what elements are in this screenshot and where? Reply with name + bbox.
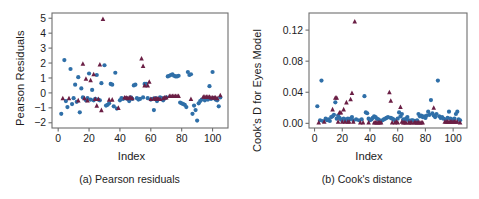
- data-point-circle: [73, 83, 77, 87]
- data-point-circle: [62, 58, 66, 62]
- data-point-triangle: [101, 16, 106, 21]
- x-tick-label-a: 100: [204, 133, 222, 144]
- x-tick-label-b: 100: [444, 133, 462, 144]
- data-point-circle: [113, 71, 117, 75]
- x-tick-label-b: 80: [420, 133, 432, 144]
- data-point-circle: [152, 108, 156, 112]
- data-point-circle: [436, 79, 440, 83]
- y-tick-label-b: 0.04: [283, 87, 303, 98]
- data-point-circle: [70, 102, 74, 106]
- x-tick-label-a: 80: [176, 133, 188, 144]
- data-point-triangle: [67, 96, 72, 101]
- data-point-circle: [110, 83, 114, 87]
- data-point-circle: [319, 79, 323, 83]
- y-tick-label-a: 1: [40, 73, 46, 84]
- data-point-circle: [107, 101, 111, 105]
- data-point-triangle: [84, 76, 89, 81]
- data-point-triangle: [341, 107, 346, 112]
- data-point-circle: [133, 83, 137, 87]
- x-tick-label-b: 0: [312, 133, 318, 144]
- data-point-circle: [59, 112, 63, 116]
- data-point-triangle: [387, 90, 392, 95]
- data-point-circle: [184, 105, 188, 109]
- figure-container: −2−1012345020406080100 Pearson Residuals…: [0, 0, 479, 199]
- data-point-triangle: [94, 103, 99, 108]
- data-point-triangle: [350, 91, 355, 96]
- data-point-circle: [189, 72, 193, 76]
- x-tick-label-b: 60: [392, 133, 404, 144]
- data-point-circle: [210, 70, 214, 74]
- x-tick-label-a: 20: [83, 133, 95, 144]
- series-circles-a: [59, 58, 222, 123]
- data-point-triangle: [388, 98, 393, 103]
- data-point-triangle: [99, 108, 104, 113]
- data-point-circle: [429, 98, 433, 102]
- data-point-circle: [141, 95, 145, 99]
- series-circles-b: [315, 79, 462, 124]
- data-point-triangle: [88, 78, 93, 83]
- data-point-triangle: [61, 96, 66, 101]
- y-tick-label-a: −2: [34, 117, 46, 128]
- data-point-circle: [102, 63, 106, 67]
- data-point-circle: [193, 108, 197, 112]
- data-point-triangle: [431, 105, 436, 110]
- data-point-circle: [455, 110, 459, 114]
- data-point-circle: [76, 75, 80, 79]
- data-point-circle: [90, 88, 94, 92]
- x-tick-label-a: 0: [55, 133, 61, 144]
- data-point-triangle: [139, 56, 144, 61]
- x-tick-label-b: 40: [364, 133, 376, 144]
- x-axis-title-a: Index: [12, 150, 251, 162]
- data-point-circle: [217, 104, 221, 108]
- series-triangles-b: [316, 19, 462, 125]
- data-point-circle: [190, 112, 194, 116]
- y-axis-title-b: Cook's D for Eyes Model: [251, 29, 263, 152]
- data-point-circle: [328, 119, 332, 123]
- data-point-circle: [78, 110, 82, 114]
- y-tick-label-b: 0.08: [283, 56, 303, 67]
- data-point-circle: [362, 94, 366, 98]
- data-point-triangle: [344, 100, 349, 105]
- data-point-circle: [400, 112, 404, 116]
- y-tick-label-a: 2: [40, 58, 46, 69]
- data-point-triangle: [218, 93, 223, 98]
- data-point-circle: [332, 113, 336, 117]
- data-point-circle: [447, 110, 451, 114]
- y-axis-title-a: Pearson Residuals: [14, 30, 26, 126]
- data-point-circle: [79, 86, 83, 90]
- data-point-circle: [87, 71, 91, 75]
- data-point-circle: [315, 104, 319, 108]
- data-point-circle: [72, 96, 76, 100]
- data-point-circle: [99, 81, 103, 85]
- data-point-triangle: [398, 105, 403, 110]
- data-point-triangle: [147, 79, 152, 84]
- y-tick-label-a: 3: [40, 43, 46, 54]
- data-point-circle: [65, 105, 69, 109]
- data-point-circle: [365, 111, 369, 115]
- y-tick-label-a: 4: [40, 28, 46, 39]
- x-tick-label-a: 60: [145, 133, 157, 144]
- data-point-triangle: [189, 96, 194, 101]
- data-point-triangle: [141, 64, 146, 69]
- data-point-triangle: [330, 107, 335, 112]
- y-tick-label-a: 5: [40, 13, 46, 24]
- data-point-triangle: [81, 61, 86, 66]
- data-point-circle: [192, 104, 196, 108]
- y-tick-label-b: 0.12: [283, 25, 303, 36]
- panel-pearson-residuals: −2−1012345020406080100 Pearson Residuals…: [0, 0, 239, 199]
- pearson-residuals-plot: −2−1012345020406080100: [0, 0, 239, 199]
- x-tick-label-b: 20: [336, 133, 348, 144]
- data-point-triangle: [352, 19, 357, 24]
- panel-caption-b: (b) Cook's distance: [247, 173, 479, 185]
- data-point-circle: [207, 84, 211, 88]
- data-point-triangle: [110, 97, 115, 102]
- panel-caption-a: (a) Pearson residuals: [10, 173, 249, 185]
- x-axis-title-b: Index: [249, 150, 479, 162]
- data-point-circle: [333, 100, 337, 104]
- data-point-triangle: [98, 62, 103, 67]
- x-tick-label-a: 40: [114, 133, 126, 144]
- data-point-circle: [195, 118, 199, 122]
- data-point-circle: [68, 67, 72, 71]
- cooks-distance-plot: 0.000.040.080.12020406080100: [239, 0, 479, 199]
- panel-cooks-distance: 0.000.040.080.12020406080100 Cook's D fo…: [239, 0, 479, 199]
